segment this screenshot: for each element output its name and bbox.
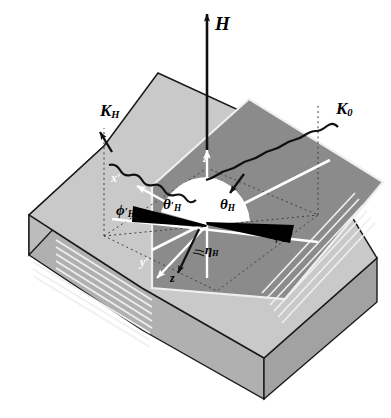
label-incident-wave-vector: K0 <box>336 100 353 119</box>
label-phi-H: ϕH <box>273 228 289 244</box>
label-theta-H: θH <box>220 197 235 213</box>
label-theta-H-prime: θ′H <box>163 197 181 213</box>
theta-h-subscript: H <box>228 203 235 213</box>
eta-h-subscript: H <box>212 249 218 258</box>
label-axis-x-prime: x′ <box>111 172 120 184</box>
phi-h-subscript: H <box>282 234 289 244</box>
label-axis-z-prime: z′ <box>203 153 210 164</box>
label-magnetic-field: H <box>215 14 230 33</box>
label-phi-H-prime: ϕ′H <box>116 203 135 219</box>
label-diffracted-wave-vector: KH <box>100 102 120 121</box>
label-eta-H: ηH <box>205 243 218 258</box>
phi-hp-subscript: H <box>128 209 135 219</box>
scattering-geometry-figure: H K0 KH z′ x′ y′ z θH θ′H ϕH ϕ′H ηH <box>0 0 391 418</box>
label-axis-z-hat: z <box>170 272 175 284</box>
diagram-canvas <box>0 0 391 418</box>
kh-subscript: H <box>111 109 119 120</box>
theta-hp-subscript: H <box>174 203 181 213</box>
label-axis-y-prime: y′ <box>140 256 149 268</box>
z-prime-mark: ′ <box>207 152 210 164</box>
k0-subscript: 0 <box>347 107 352 118</box>
y-prime-mark: ′ <box>145 255 148 269</box>
x-prime-mark: ′ <box>117 171 120 185</box>
